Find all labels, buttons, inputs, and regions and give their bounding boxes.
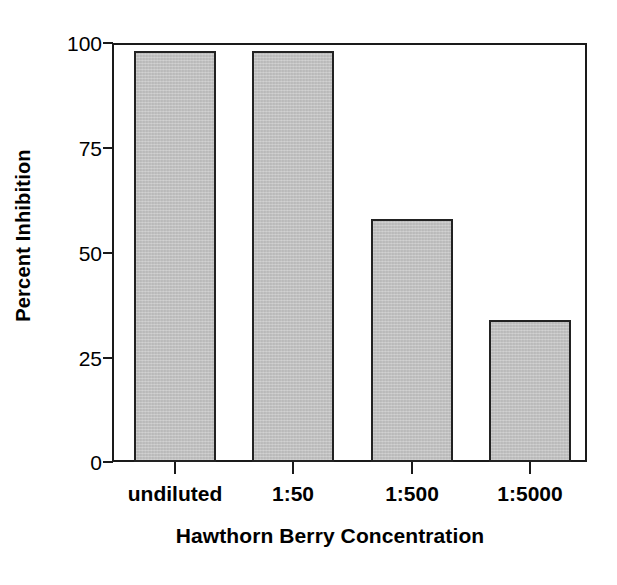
y-tick-label-25: 25 [50, 348, 102, 369]
y-axis-title: Percent Inhibition [0, 0, 46, 470]
x-tick-mark-1-5000 [529, 462, 531, 474]
bar-1-500 [371, 219, 453, 462]
y-tick-label-50: 50 [50, 243, 102, 264]
x-tick-mark-1-50 [292, 462, 294, 474]
bar-1-5000 [489, 320, 571, 462]
x-axis-title: Hawthorn Berry Concentration [60, 524, 600, 548]
y-tick-label-0: 0 [50, 452, 102, 473]
bar-chart-figure: Percent Inhibition 100 75 50 25 0 undilu… [0, 0, 617, 585]
y-tick-label-100: 100 [50, 33, 102, 54]
bar-undiluted [134, 51, 216, 462]
x-tick-mark-undiluted [174, 462, 176, 474]
y-axis-title-text: Percent Inhibition [12, 149, 35, 322]
bars-layer [112, 43, 587, 462]
y-axis-tick-labels: 100 75 50 25 0 [44, 0, 102, 585]
bar-1-50 [252, 51, 334, 462]
y-tick-label-75: 75 [50, 138, 102, 159]
x-tick-label-1-5000: 1:5000 [450, 482, 610, 505]
x-tick-mark-1-500 [411, 462, 413, 474]
